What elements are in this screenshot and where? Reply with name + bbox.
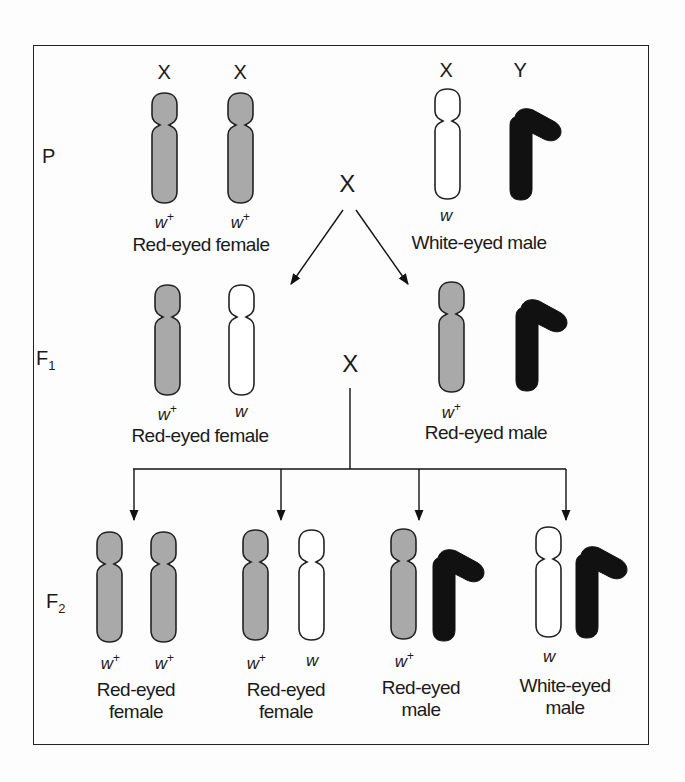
chromosome-label-y: Y [514, 60, 527, 80]
p-male-chromosomes [435, 89, 561, 200]
p-female-chromosomes [152, 93, 253, 203]
x-chromosome-wildtype [152, 93, 177, 203]
allele-label: w [306, 652, 318, 669]
allele-label: w [440, 207, 452, 224]
allele-label: w+ [101, 652, 119, 672]
generation-label-f2: F2 [46, 591, 65, 615]
phenotype-label: Red-eyed female [132, 235, 269, 254]
y-chromosome [510, 109, 561, 200]
generation-label-p: P [42, 146, 55, 166]
chromosome-label-x: X [440, 60, 453, 80]
allele-label: w+ [231, 211, 249, 231]
allele-label: w+ [158, 403, 176, 423]
allele-label: w [543, 648, 555, 665]
phenotype-label: White-eyed male [519, 675, 610, 719]
phenotype-label: Red-eyed female [97, 679, 175, 723]
f1-male-chromosomes [439, 282, 567, 392]
f2-offspring-3-chromosomes [391, 529, 484, 641]
cross-symbol: X [339, 172, 355, 196]
phenotype-label: Red-eyed female [247, 679, 325, 723]
phenotype-label: White-eyed male [411, 233, 546, 252]
arrow-to-f1-female [291, 210, 343, 284]
phenotype-label: Red-eyed female [131, 426, 268, 445]
allele-label: w+ [442, 401, 460, 421]
f1-female-chromosomes [155, 285, 254, 395]
generation-label-f1: F1 [36, 348, 55, 372]
allele-label: w+ [247, 652, 265, 672]
allele-label: w+ [395, 650, 413, 670]
f2-offspring-1-chromosomes [97, 532, 176, 642]
allele-label: w [235, 403, 247, 420]
phenotype-label: Red-eyed male [382, 677, 460, 721]
f2-offspring-2-chromosomes [243, 530, 324, 640]
arrow-to-f1-male [356, 210, 408, 284]
allele-label: w+ [155, 652, 173, 672]
x-chromosome-mutant [435, 89, 460, 199]
allele-label: w+ [155, 211, 173, 231]
chromosome-label-x: X [158, 62, 171, 82]
phenotype-label: Red-eyed male [425, 423, 547, 442]
cross-symbol: X [342, 352, 358, 376]
chromosome-label-x: X [234, 62, 247, 82]
x-chromosome-wildtype [228, 93, 253, 203]
f2-offspring-4-chromosomes [536, 527, 627, 638]
